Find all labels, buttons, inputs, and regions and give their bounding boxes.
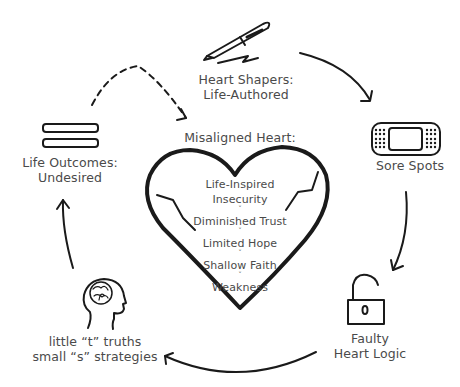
chevron-down-icon: ˅ [180, 250, 300, 257]
heart-title: Misaligned Heart: [170, 130, 310, 145]
node-heart-shapers: Heart Shapers: Life-Authored [186, 72, 306, 102]
arrow-truths-to-outcomes [57, 200, 73, 268]
bandage-icon [372, 123, 440, 155]
faulty-logic-line1: Faulty [351, 331, 389, 346]
node-life-outcomes: Life Outcomes: Undesired [10, 155, 130, 185]
little-truths-line1: little “t” truths [49, 334, 142, 349]
arrow-sore-to-faulty [391, 192, 407, 270]
life-outcomes-line1: Life Outcomes: [22, 155, 118, 170]
pen-icon [204, 23, 269, 63]
sore-spots-label: Sore Spots [376, 158, 444, 173]
chevron-down-icon: ˅ [180, 206, 300, 213]
heart-item-6: Weakness [212, 281, 268, 294]
chevron-down-icon: ˅ [180, 272, 300, 279]
heart-shapers-line2: Life-Authored [203, 87, 289, 102]
arrow-shapers-to-sore [300, 53, 372, 101]
little-truths-line2: small “s” strategies [32, 349, 157, 364]
head-brain-icon [84, 279, 126, 329]
chevron-down-icon: ˅ [180, 228, 300, 235]
heart-items: Life-Inspired Insecurity ˅ Diminished Tr… [180, 176, 300, 294]
arrow-outcomes-to-heart-dashed [92, 66, 186, 120]
faulty-logic-line2: Heart Logic [334, 346, 407, 361]
node-little-truths: little “t” truths small “s” strategies [30, 334, 160, 364]
heart-shapers-line1: Heart Shapers: [198, 72, 293, 87]
node-sore-spots: Sore Spots [362, 158, 458, 173]
node-faulty-logic: Faulty Heart Logic [320, 331, 420, 361]
arrow-faulty-to-truths [165, 352, 316, 372]
bandage-dots [375, 129, 436, 148]
heart-item-1: Life-Inspired [205, 178, 274, 191]
equals-bars-icon [43, 124, 98, 147]
life-outcomes-line2: Undesired [38, 170, 102, 185]
unlocked-padlock-icon [348, 275, 384, 324]
